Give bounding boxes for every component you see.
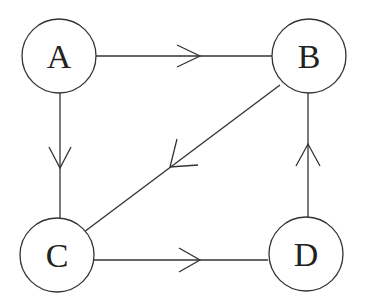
arrowhead-icon [170,139,198,167]
edge-a-to-c [49,93,71,218]
node-label: C [46,237,69,274]
node-d: D [269,217,343,291]
edge-a-to-b [96,45,272,67]
node-label: A [47,38,72,75]
node-a: A [22,19,96,93]
edge-c-to-d [94,248,268,272]
graph-canvas: A B C D [0,0,366,305]
node-b: B [272,19,346,93]
node-label: D [294,236,319,273]
edge-b-to-c [84,85,280,232]
edge-d-to-b [296,92,320,218]
node-label: B [298,38,321,75]
node-c: C [20,218,94,292]
edge-line [84,85,280,232]
